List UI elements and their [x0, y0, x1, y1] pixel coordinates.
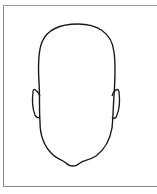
- head-outline: [38, 24, 115, 166]
- head-outline-illustration: [0, 0, 157, 194]
